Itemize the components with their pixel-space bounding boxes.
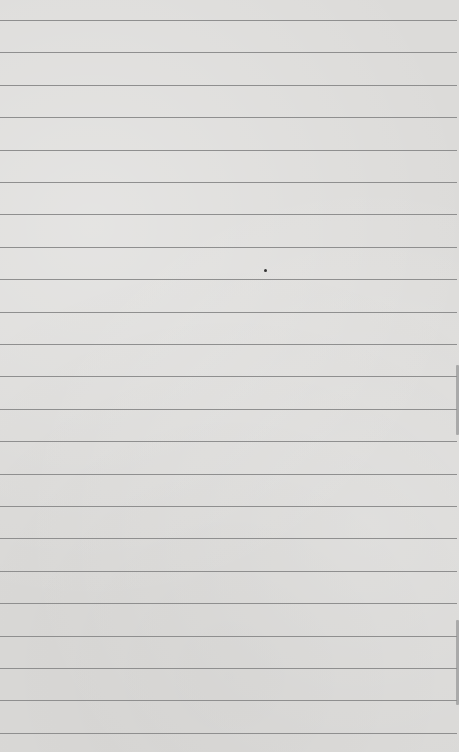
- ruled-line: [0, 117, 457, 118]
- ruled-line: [0, 538, 457, 539]
- ruled-line: [0, 20, 457, 21]
- ruled-line: [0, 733, 457, 734]
- ink-dot: [264, 269, 267, 272]
- ruled-line: [0, 636, 457, 637]
- ruled-line: [0, 700, 457, 701]
- ruled-line: [0, 376, 457, 377]
- ruled-line: [0, 85, 457, 86]
- ruled-line: [0, 150, 457, 151]
- ruled-line: [0, 182, 457, 183]
- lined-paper-sheet: [0, 0, 459, 752]
- ruled-line: [0, 668, 457, 669]
- ruled-line: [0, 441, 457, 442]
- ruled-line: [0, 474, 457, 475]
- ruled-line: [0, 506, 457, 507]
- ruled-line: [0, 571, 457, 572]
- ruled-line: [0, 279, 457, 280]
- ruled-line: [0, 409, 457, 410]
- ruled-line: [0, 312, 457, 313]
- ruled-line: [0, 52, 457, 53]
- ruled-line: [0, 603, 457, 604]
- ruled-line: [0, 247, 457, 248]
- ruled-line: [0, 214, 457, 215]
- ruled-line: [0, 344, 457, 345]
